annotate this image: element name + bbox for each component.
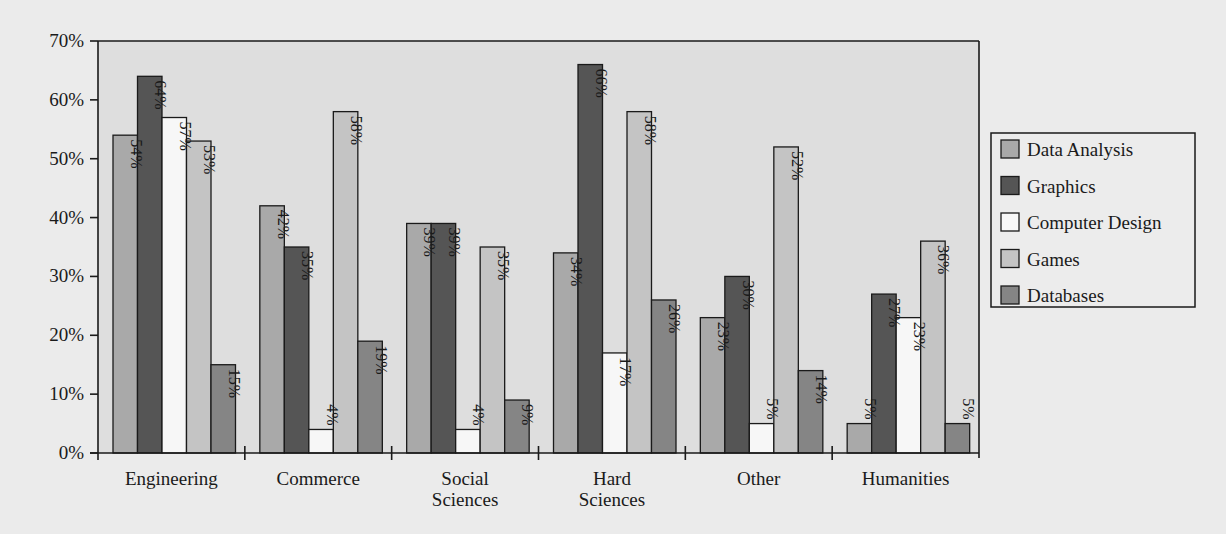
bar-value-label: 58% bbox=[642, 116, 659, 145]
bar-social-sciences-graphics bbox=[431, 223, 456, 453]
x-axis-category-labels: EngineeringCommerceSocialSciencesHardSci… bbox=[125, 468, 949, 510]
legend-swatch-graphics bbox=[1001, 177, 1019, 195]
bar-value-label: 23% bbox=[715, 322, 732, 351]
bar-engineering-games bbox=[187, 141, 212, 453]
bar-value-label: 36% bbox=[935, 245, 952, 274]
bar-value-label: 4% bbox=[470, 404, 487, 425]
bar-commerce-computer-design bbox=[309, 429, 334, 453]
y-tick-label: 20% bbox=[49, 324, 84, 345]
legend-swatch-databases bbox=[1001, 286, 1019, 304]
bar-value-label: 5% bbox=[764, 398, 781, 419]
bar-commerce-data-analysis bbox=[260, 206, 285, 453]
bar-social-sciences-computer-design bbox=[456, 429, 481, 453]
legend-label-databases: Databases bbox=[1027, 285, 1104, 306]
legend-label-games: Games bbox=[1027, 249, 1080, 270]
legend-label-graphics: Graphics bbox=[1027, 176, 1096, 197]
grouped-bar-chart: 54%64%57%53%15%42%35%4%58%19%39%39%4%35%… bbox=[0, 0, 1226, 534]
y-tick-label: 30% bbox=[49, 265, 84, 286]
bar-value-label: 35% bbox=[495, 251, 512, 280]
bar-value-label: 58% bbox=[348, 116, 365, 145]
bar-value-label: 23% bbox=[911, 322, 928, 351]
bar-other-computer-design bbox=[749, 424, 774, 453]
x-category-label: Other bbox=[737, 468, 781, 489]
bar-value-label: 39% bbox=[421, 227, 438, 256]
legend-swatch-games bbox=[1001, 250, 1019, 268]
y-tick-label: 40% bbox=[49, 207, 84, 228]
legend: Data AnalysisGraphicsComputer DesignGame… bbox=[991, 133, 1195, 307]
bar-value-label: 17% bbox=[617, 357, 634, 386]
bar-value-label: 34% bbox=[568, 257, 585, 286]
bar-value-label: 14% bbox=[813, 375, 830, 404]
bar-hard-sciences-games bbox=[627, 112, 652, 453]
bar-engineering-graphics bbox=[138, 76, 163, 453]
y-axis-ticks: 0%10%20%30%40%50%60%70% bbox=[49, 30, 98, 463]
bar-value-label: 39% bbox=[446, 227, 463, 256]
bar-value-label: 64% bbox=[152, 80, 169, 109]
y-tick-label: 10% bbox=[49, 383, 84, 404]
bar-engineering-computer-design bbox=[162, 118, 187, 453]
bar-value-label: 4% bbox=[324, 404, 341, 425]
bar-humanities-databases bbox=[945, 424, 970, 453]
x-category-label: Engineering bbox=[125, 468, 218, 489]
bar-social-sciences-data-analysis bbox=[407, 223, 432, 453]
bar-value-label: 5% bbox=[862, 398, 879, 419]
x-category-label: Sciences bbox=[432, 489, 498, 510]
legend-swatch-computer-design bbox=[1001, 213, 1019, 231]
x-category-label: Hard bbox=[593, 468, 631, 489]
bar-value-label: 30% bbox=[740, 280, 757, 309]
bar-value-label: 54% bbox=[128, 139, 145, 168]
bar-engineering-data-analysis bbox=[113, 135, 138, 453]
bar-value-label: 66% bbox=[593, 69, 610, 98]
bar-value-label: 27% bbox=[886, 298, 903, 327]
bar-value-label: 5% bbox=[960, 398, 977, 419]
bar-value-label: 53% bbox=[201, 145, 218, 174]
x-category-label: Commerce bbox=[277, 468, 360, 489]
bar-value-label: 42% bbox=[275, 210, 292, 239]
bar-value-label: 26% bbox=[666, 304, 683, 333]
x-category-label: Humanities bbox=[862, 468, 950, 489]
y-tick-label: 70% bbox=[49, 30, 84, 51]
bar-value-label: 9% bbox=[519, 404, 536, 425]
bar-value-label: 57% bbox=[177, 122, 194, 151]
legend-label-computer-design: Computer Design bbox=[1027, 212, 1162, 233]
y-tick-label: 0% bbox=[59, 442, 85, 463]
bar-value-label: 15% bbox=[226, 369, 243, 398]
y-tick-label: 50% bbox=[49, 148, 84, 169]
bar-value-label: 52% bbox=[789, 151, 806, 180]
bar-value-label: 35% bbox=[299, 251, 316, 280]
legend-label-data-analysis: Data Analysis bbox=[1027, 139, 1133, 160]
x-category-label: Sciences bbox=[579, 489, 645, 510]
y-tick-label: 60% bbox=[49, 89, 84, 110]
bar-value-label: 19% bbox=[373, 345, 390, 374]
legend-swatch-data-analysis bbox=[1001, 140, 1019, 158]
bar-commerce-games bbox=[333, 112, 358, 453]
bar-humanities-data-analysis bbox=[847, 424, 872, 453]
x-category-label: Social bbox=[441, 468, 489, 489]
